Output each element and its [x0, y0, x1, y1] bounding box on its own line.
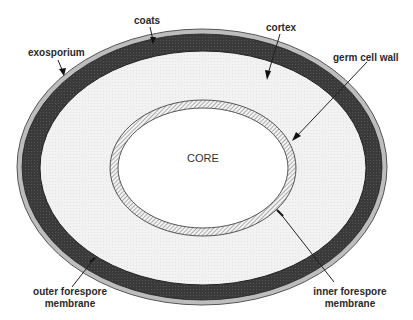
label-inner-forespore-membrane-line2: membrane	[300, 298, 400, 310]
leader-exosporium	[58, 60, 66, 76]
core-layer	[118, 108, 288, 228]
label-core: CORE	[187, 152, 219, 164]
label-germ-cell-wall: germ cell wall	[333, 52, 399, 64]
label-outer-forespore-membrane-line1: outer forespore	[20, 286, 120, 298]
label-coats: coats	[134, 15, 160, 27]
label-outer-forespore-membrane: outer forespore membrane	[20, 286, 120, 310]
spore-diagram: coats exosporium cortex germ cell wall C…	[0, 0, 413, 320]
label-inner-forespore-membrane-line1: inner forespore	[300, 286, 400, 298]
label-inner-forespore-membrane: inner forespore membrane	[300, 286, 400, 310]
label-cortex: cortex	[266, 22, 296, 34]
label-outer-forespore-membrane-line2: membrane	[20, 298, 120, 310]
label-exosporium: exosporium	[28, 47, 85, 59]
